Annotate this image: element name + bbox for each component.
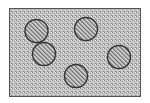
hatched-circle-1 (25, 20, 48, 43)
hatched-circle-2 (75, 18, 98, 41)
hatched-circle-4 (108, 46, 131, 69)
hatched-circle-5 (65, 65, 88, 88)
diagram-canvas (0, 0, 150, 103)
hatched-circle-3 (33, 43, 56, 66)
